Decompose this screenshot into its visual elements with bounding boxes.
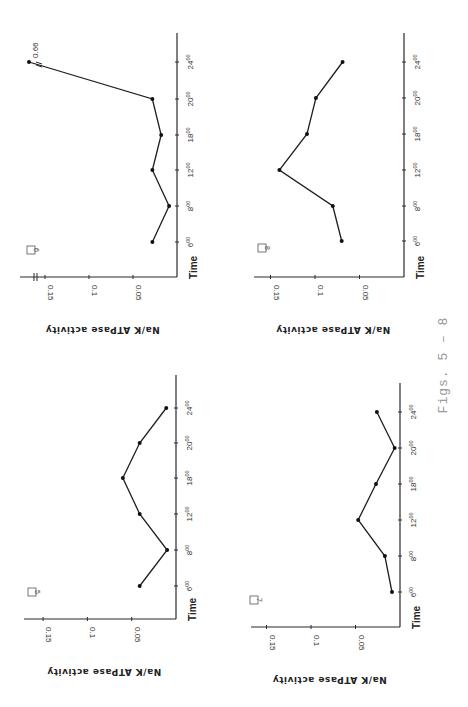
time-tick-label: 1200: [412, 162, 422, 177]
data-point: [27, 60, 31, 64]
data-line: [358, 412, 394, 592]
data-point: [121, 476, 125, 480]
value-tick-label: 0.1: [312, 635, 321, 647]
time-axis-title: Time: [415, 255, 426, 279]
data-point: [374, 482, 378, 486]
data-point: [138, 584, 142, 588]
y-axis-title: Na/K ATPase activity: [47, 667, 161, 677]
time-tick-label: 2000: [185, 91, 195, 106]
time-tick-label: 800: [185, 201, 195, 212]
data-line: [123, 408, 167, 586]
value-tick-label: 0.05: [361, 285, 370, 301]
value-tick-label: 0.05: [134, 285, 143, 301]
time-tick-label: 2400: [184, 400, 194, 415]
time-tick-label: 1800: [408, 476, 418, 491]
data-point: [383, 554, 387, 558]
data-point: [390, 590, 394, 594]
time-tick-label: 600: [412, 236, 422, 247]
time-tick-label: 2400: [412, 54, 422, 69]
data-point: [150, 97, 154, 101]
data-point: [341, 60, 345, 64]
data-point: [165, 548, 169, 552]
value-tick-label: 0.05: [133, 627, 142, 643]
time-tick-label: 1800: [184, 470, 194, 485]
data-point: [164, 406, 168, 410]
data-point: [150, 240, 154, 244]
data-point: [314, 96, 318, 100]
data-point: [138, 512, 142, 516]
time-tick-label: 1800: [185, 127, 195, 142]
time-tick-label: 600: [408, 587, 418, 598]
panel-fig-5: 0.050.10.156008001200180020002400TimeNa/…: [24, 375, 198, 677]
data-point: [340, 239, 344, 243]
time-tick-label: 800: [412, 201, 422, 212]
panel-fig-8: 0.050.10.156008001200180020002400TimeNa/…: [254, 33, 426, 335]
figure-number: 7: [256, 598, 263, 602]
time-tick-label: 1200: [408, 512, 418, 527]
time-tick-label: 2400: [185, 54, 195, 69]
value-tick-label: 0.15: [268, 635, 277, 651]
time-tick-label: 2000: [408, 440, 418, 455]
data-point: [159, 133, 163, 137]
data-line: [279, 62, 342, 241]
data-point: [393, 446, 397, 450]
panel-fig-6: 0.050.10.156008001200180020002400TimeNa/…: [20, 33, 199, 335]
time-tick-label: 600: [185, 237, 195, 248]
data-point: [375, 410, 379, 414]
time-axis-title: Time: [188, 255, 199, 279]
y-axis-title: Na/K ATPase activity: [276, 325, 390, 335]
time-tick-label: 2400: [408, 404, 418, 419]
y-axis-title: Na/K ATPase activity: [45, 325, 159, 335]
time-tick-label: 1200: [185, 162, 195, 177]
data-point: [167, 204, 171, 208]
data-point: [138, 441, 142, 445]
panel-fig-7: 0.050.10.156008001200180020002400TimeNa/…: [250, 383, 422, 685]
value-tick-label: 0.1: [316, 285, 325, 297]
time-axis-title: Time: [411, 605, 422, 629]
y-axis-title: Na/K ATPase activity: [272, 675, 386, 685]
time-tick-label: 600: [184, 581, 194, 592]
figure-number: 5: [34, 590, 41, 594]
data-point: [356, 518, 360, 522]
value-tick-label: 0.15: [272, 285, 281, 301]
time-tick-label: 1200: [184, 506, 194, 521]
data-point: [150, 168, 154, 172]
data-line: [29, 62, 169, 242]
value-tick-label: 0.1: [90, 285, 99, 297]
time-tick-label: 800: [408, 551, 418, 562]
figure-canvas: 0.050.10.156008001200180020002400TimeNa/…: [0, 0, 468, 707]
time-axis-title: Time: [187, 597, 198, 621]
figure-number: 6: [33, 248, 40, 252]
figure-caption: Figs. 5 – 8: [436, 317, 451, 414]
data-point: [305, 132, 309, 136]
figure-number: 8: [264, 246, 271, 250]
data-point: [331, 204, 335, 208]
time-tick-label: 800: [184, 545, 194, 556]
data-point: [277, 168, 281, 172]
value-tick-label: 0.1: [88, 627, 97, 639]
value-tick-label: 0.15: [44, 627, 53, 643]
value-annotation: 0.66: [31, 42, 40, 58]
time-tick-label: 1800: [412, 126, 422, 141]
time-tick-label: 2000: [184, 435, 194, 450]
value-tick-label: 0.05: [357, 635, 366, 651]
value-tick-label: 0.15: [46, 285, 55, 301]
time-tick-label: 2000: [412, 90, 422, 105]
